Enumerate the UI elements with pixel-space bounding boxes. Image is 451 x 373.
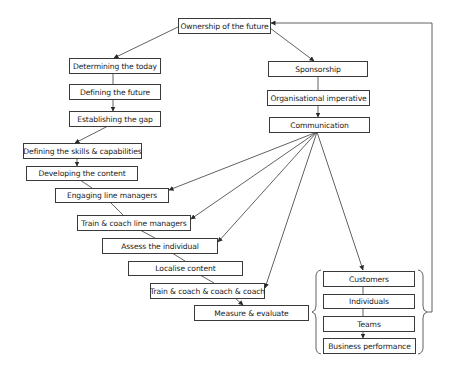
node-business-performance: Business performance bbox=[323, 338, 416, 354]
node-sponsorship: Sponsorship bbox=[268, 61, 368, 77]
node-determining-the-today: Determining the today bbox=[69, 58, 161, 74]
node-teams: Teams bbox=[323, 316, 415, 332]
node-train-coach-coach-coach: Train & coach & coach & coach bbox=[150, 283, 265, 299]
node-developing-the-content: Developing the content bbox=[26, 166, 138, 181]
node-individuals: Individuals bbox=[323, 294, 415, 309]
node-organisational-imperative: Organisational imperative bbox=[267, 90, 370, 106]
node-ownership-of-the-future: Ownership of the future bbox=[178, 18, 271, 34]
node-train-coach-line-managers: Train & coach line managers bbox=[77, 215, 191, 231]
node-assess-the-individual: Assess the individual bbox=[102, 238, 218, 254]
node-defining-skills-capabilities: Defining the skills & capabilities bbox=[23, 143, 142, 159]
node-localise-content: Localise content bbox=[128, 261, 243, 276]
node-communication: Communication bbox=[269, 117, 370, 133]
node-defining-the-future: Defining the future bbox=[69, 84, 161, 100]
node-measure-evaluate: Measure & evaluate bbox=[194, 305, 309, 321]
node-establishing-the-gap: Establishing the gap bbox=[69, 111, 161, 127]
node-customers: Customers bbox=[323, 271, 415, 287]
node-engaging-line-managers: Engaging line managers bbox=[55, 188, 169, 203]
